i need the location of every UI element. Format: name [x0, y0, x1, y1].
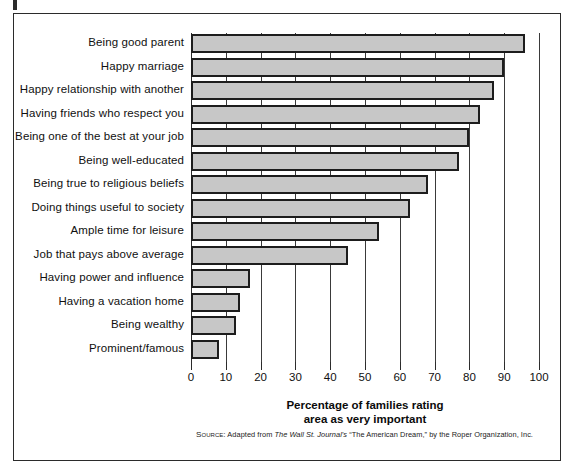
- x-tick-60: [400, 362, 401, 370]
- x-axis-title-line-1: Percentage of families rating: [191, 399, 539, 413]
- category-label: Ample time for leisure: [71, 224, 184, 236]
- category-label: Having a vacation home: [58, 295, 184, 307]
- x-tick-70: [435, 362, 436, 370]
- x-tick-80: [469, 362, 470, 370]
- category-label: Being well-educated: [79, 154, 184, 166]
- bar-row: [191, 174, 539, 198]
- x-tick-label-0: 0: [188, 371, 194, 383]
- x-axis-title-line-2: area as very important: [191, 413, 539, 427]
- x-tick-90: [504, 362, 505, 370]
- x-tick-label-10: 10: [219, 371, 232, 383]
- category-label: Happy marriage: [101, 60, 184, 72]
- x-tick-40: [330, 362, 331, 370]
- x-tick-label-80: 80: [463, 371, 476, 383]
- bar: [191, 246, 348, 265]
- bar-row: [191, 221, 539, 245]
- bar: [191, 222, 379, 241]
- source-text-after: “The American Dream,” by the Roper Organ…: [347, 430, 533, 439]
- source-text-before: Adapted from: [226, 430, 275, 439]
- bar-row: [191, 127, 539, 151]
- bar-row: [191, 104, 539, 128]
- x-tick-label-100: 100: [529, 371, 548, 383]
- x-axis-title: Percentage of families rating area as ve…: [191, 399, 539, 426]
- bar: [191, 175, 428, 194]
- bar-row: [191, 268, 539, 292]
- bar-group: [191, 33, 539, 362]
- category-label-column: Being good parentHappy marriageHappy rel…: [0, 33, 184, 362]
- x-tick-50: [365, 362, 366, 370]
- x-tick-label-90: 90: [498, 371, 511, 383]
- category-label: Having power and influence: [39, 271, 184, 283]
- bar: [191, 128, 469, 147]
- category-label: Happy relationship with another: [20, 83, 184, 95]
- x-tick-30: [295, 362, 296, 370]
- bar-row: [191, 57, 539, 81]
- bar: [191, 199, 410, 218]
- bar-row: [191, 151, 539, 175]
- bar-row: [191, 339, 539, 363]
- bar: [191, 105, 480, 124]
- bar-row: [191, 80, 539, 104]
- bar: [191, 152, 459, 171]
- bar-row: [191, 292, 539, 316]
- bar-row: [191, 315, 539, 339]
- category-label: Job that pays above average: [34, 248, 184, 260]
- x-tick-label-30: 30: [289, 371, 302, 383]
- x-tick-label-70: 70: [428, 371, 441, 383]
- bar: [191, 34, 525, 53]
- plot-area: [191, 33, 539, 362]
- x-axis: 0102030405060708090100: [191, 362, 539, 392]
- category-label: Being wealthy: [111, 318, 184, 330]
- source-label: Source:: [196, 430, 226, 439]
- x-tick-label-40: 40: [324, 371, 337, 383]
- category-label: Doing things useful to society: [31, 201, 184, 213]
- bar-row: [191, 245, 539, 269]
- x-tick-label-20: 20: [254, 371, 267, 383]
- corner-registration-mark: [13, 0, 17, 10]
- x-tick-100: [539, 362, 540, 370]
- x-tick-label-50: 50: [359, 371, 372, 383]
- bar: [191, 269, 250, 288]
- gridline-100: [539, 33, 540, 362]
- x-tick-20: [261, 362, 262, 370]
- figure-container: Being good parentHappy marriageHappy rel…: [0, 0, 574, 474]
- category-label: Prominent/famous: [89, 342, 184, 354]
- category-label: Being good parent: [88, 36, 184, 48]
- category-label: Being true to religious beliefs: [33, 177, 184, 189]
- x-tick-10: [226, 362, 227, 370]
- x-tick-0: [191, 362, 192, 370]
- bar: [191, 316, 236, 335]
- bar-row: [191, 33, 539, 57]
- source-note: Source: Adapted from The Wall St. Journa…: [196, 430, 544, 439]
- category-label: Being one of the best at your job: [15, 130, 184, 142]
- bar: [191, 293, 240, 312]
- category-label: Having friends who respect you: [21, 107, 184, 119]
- source-publication: The Wall St. Journal's: [274, 430, 347, 439]
- bar: [191, 58, 504, 77]
- bar: [191, 81, 494, 100]
- bar-row: [191, 198, 539, 222]
- bar: [191, 340, 219, 359]
- x-tick-label-60: 60: [393, 371, 406, 383]
